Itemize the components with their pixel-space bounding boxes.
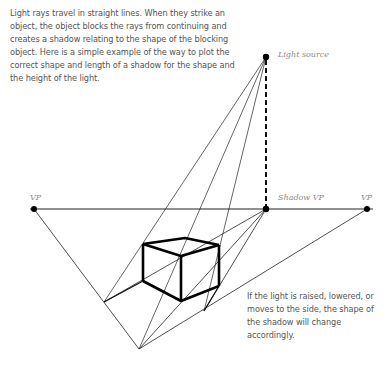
light-ray-1 <box>104 57 266 302</box>
cube <box>143 238 219 301</box>
vp-right-point <box>364 206 370 212</box>
light-source-point <box>263 54 269 60</box>
vp-left-point <box>31 206 37 212</box>
shadow-edge-left <box>104 281 143 302</box>
vp-right-label: VP <box>361 193 372 202</box>
left-vp-line <box>34 209 139 349</box>
light-ray-3 <box>204 57 266 311</box>
light-source-label: Light source <box>278 50 329 59</box>
note-paragraph: If the light is raised, lowered, or move… <box>247 290 382 342</box>
shadow-vp-point <box>263 206 269 212</box>
shadow-vp-label: Shadow VP <box>278 193 324 202</box>
vp-left-label: VP <box>30 193 41 202</box>
